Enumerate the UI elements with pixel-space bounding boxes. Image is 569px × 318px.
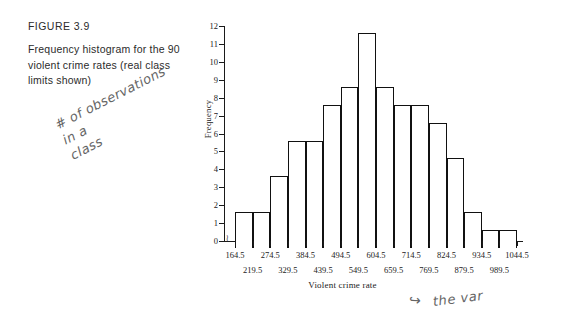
y-axis-tick-label: 11 xyxy=(200,40,218,49)
y-axis-tick xyxy=(219,62,224,63)
x-axis-tick xyxy=(270,241,271,246)
x-axis-tick xyxy=(517,241,518,246)
figure-description: Frequency histogram for the 90 violent c… xyxy=(28,42,188,89)
x-axis-tick xyxy=(429,241,430,246)
y-axis-tick xyxy=(219,44,224,45)
y-axis-tick xyxy=(219,151,224,152)
x-axis-tick-label: 934.5 xyxy=(462,251,502,260)
x-axis-tick xyxy=(499,241,500,246)
histogram-bar xyxy=(341,87,359,248)
y-axis-tick-label: 4 xyxy=(200,165,218,174)
y-axis-tick-label: 2 xyxy=(200,201,218,210)
y-axis-tick xyxy=(219,26,224,27)
x-axis-tick xyxy=(306,241,307,246)
x-axis-tick xyxy=(394,241,395,246)
histogram-bar xyxy=(235,212,253,248)
y-axis-tick-label: 3 xyxy=(200,183,218,192)
x-axis-tick-label: 769.5 xyxy=(409,266,449,275)
y-axis-tick xyxy=(219,134,224,135)
x-axis-tick-label: 274.5 xyxy=(250,251,290,260)
x-axis-tick-label: 329.5 xyxy=(268,266,308,275)
histogram-bar xyxy=(358,33,376,248)
histogram-bar xyxy=(270,176,288,248)
histogram-bar xyxy=(429,123,447,248)
histogram-bar xyxy=(253,212,271,248)
x-axis-tick-label: 1044.5 xyxy=(497,251,537,260)
y-axis-tick xyxy=(219,241,224,242)
x-axis-tick xyxy=(253,241,254,246)
histogram-bar xyxy=(411,105,429,248)
y-axis-tick xyxy=(219,187,224,188)
x-axis-tick-label: 989.5 xyxy=(479,266,519,275)
x-axis-tick-label: 714.5 xyxy=(391,251,431,260)
x-axis-tick xyxy=(411,241,412,246)
x-axis-tick-label: 879.5 xyxy=(444,266,484,275)
x-axis-tick-label: 824.5 xyxy=(427,251,467,260)
histogram-bar xyxy=(394,105,412,248)
y-axis-tick-label: 9 xyxy=(200,76,218,85)
y-axis-tick-label: 12 xyxy=(200,22,218,31)
x-axis-tick xyxy=(288,241,289,246)
histogram-bar xyxy=(288,141,306,249)
x-axis-tick xyxy=(376,241,377,246)
x-axis-tick-label: 604.5 xyxy=(356,251,396,260)
histogram-bar xyxy=(482,230,500,248)
x-axis-label: Violent crime rate xyxy=(193,280,492,290)
x-axis-tick xyxy=(358,241,359,246)
x-axis-tick-label: 659.5 xyxy=(374,266,414,275)
x-axis-tick xyxy=(447,241,448,246)
y-axis-tick-label: 10 xyxy=(200,58,218,67)
y-axis-tick xyxy=(219,223,224,224)
axis-break-icon: ≀ xyxy=(226,234,228,243)
y-axis-tick-label: 8 xyxy=(200,94,218,103)
y-axis-tick-label: 6 xyxy=(200,130,218,139)
y-axis-tick-label: 7 xyxy=(200,112,218,121)
histogram-bar xyxy=(323,105,341,248)
y-axis-tick xyxy=(219,205,224,206)
x-axis-tick xyxy=(341,241,342,246)
x-axis-tick-label: 494.5 xyxy=(321,251,361,260)
y-axis-line xyxy=(224,26,225,242)
y-axis-tick xyxy=(219,169,224,170)
y-axis-tick xyxy=(219,116,224,117)
plot-area: ≀ 0123456789101112164.5219.5274.5329.538… xyxy=(224,26,523,249)
x-axis-tick xyxy=(235,241,236,246)
histogram-bar xyxy=(464,212,482,248)
x-axis-tick xyxy=(323,241,324,246)
y-axis-tick-label: 0 xyxy=(200,237,218,246)
figure-caption: FIGURE 3.9 Frequency histogram for the 9… xyxy=(28,20,188,89)
histogram-bar xyxy=(499,230,517,248)
x-axis-tick-label: 439.5 xyxy=(303,266,343,275)
histogram-bar xyxy=(447,158,465,248)
x-axis-tick-label: 384.5 xyxy=(286,251,326,260)
frequency-histogram: Frequency ≀ 0123456789101112164.5219.527… xyxy=(193,18,543,314)
x-axis-tick xyxy=(482,241,483,246)
y-axis-tick xyxy=(219,80,224,81)
y-axis-tick-label: 1 xyxy=(200,219,218,228)
y-axis-tick xyxy=(219,98,224,99)
figure-number: FIGURE 3.9 xyxy=(28,20,188,32)
x-axis-tick-label: 164.5 xyxy=(215,251,255,260)
x-axis-tick-label: 219.5 xyxy=(233,266,273,275)
x-axis-tick-label: 549.5 xyxy=(338,266,378,275)
histogram-bar xyxy=(306,141,324,249)
histogram-bar xyxy=(376,87,394,248)
x-axis-tick xyxy=(464,241,465,246)
y-axis-tick-label: 5 xyxy=(200,147,218,156)
